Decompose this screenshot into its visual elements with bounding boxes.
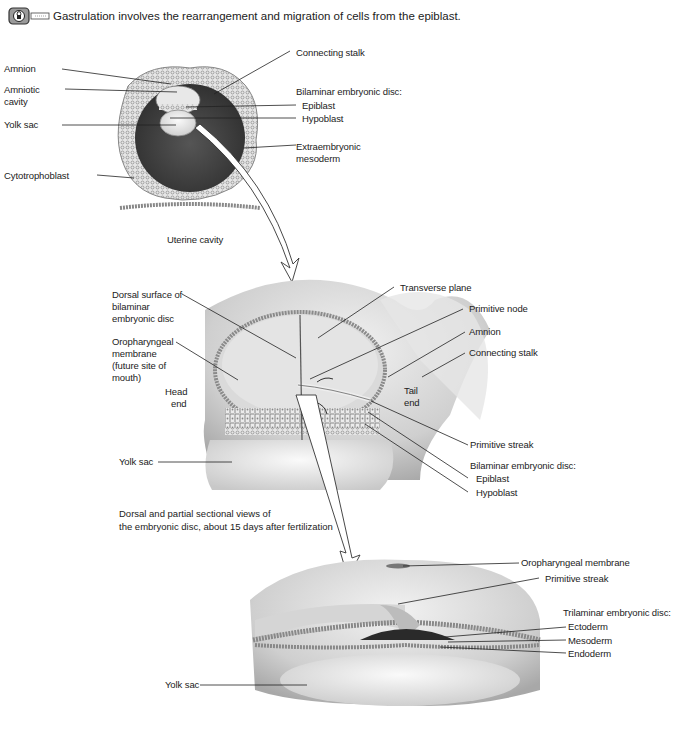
label-bilaminar-title-2: Bilaminar embryonic disc: xyxy=(470,460,576,472)
label-amniotic-cavity-1: Amniotic xyxy=(4,84,40,96)
label-bilaminar-title-1: Bilaminar embryonic disc: xyxy=(296,86,402,98)
label-primitive-node: Primitive node xyxy=(469,303,528,315)
label-epiblast-2: Epiblast xyxy=(476,473,509,485)
label-head-end-2: end xyxy=(171,398,187,410)
label-amniotic-cavity-2: cavity xyxy=(4,96,28,108)
label-yolk-sac-3: Yolk sac xyxy=(165,679,199,691)
label-extraembryonic-2: mesoderm xyxy=(296,153,340,165)
label-amnion: Amnion xyxy=(4,63,36,75)
label-endoderm: Endoderm xyxy=(568,648,611,660)
label-extraembryonic-1: Extraembryonic xyxy=(296,141,361,153)
label-epiblast-1: Epiblast xyxy=(302,100,335,112)
label-tail-end-2: end xyxy=(404,397,420,409)
label-oropharyngeal-1: Oropharyngeal xyxy=(112,336,174,348)
panel1-blastocyst xyxy=(118,67,260,208)
label-oropharyngeal-3: (future site of xyxy=(112,360,166,372)
label-mesoderm: Mesoderm xyxy=(568,635,612,647)
label-dorsal-surface-1: Dorsal surface of xyxy=(112,289,182,301)
label-connecting-stalk-2: Connecting stalk xyxy=(469,347,538,359)
label-amnion-2: Amnion xyxy=(469,326,501,338)
caption-line-1: Dorsal and partial sectional views of xyxy=(119,508,271,520)
label-oropharyngeal-4: mouth) xyxy=(112,372,141,384)
panel2-embryonic-disc xyxy=(204,280,490,490)
label-uterine-cavity: Uterine cavity xyxy=(167,234,223,246)
label-primitive-streak-2: Primitive streak xyxy=(545,573,608,585)
label-connecting-stalk-1: Connecting stalk xyxy=(296,47,365,59)
label-yolk-sac-2: Yolk sac xyxy=(119,456,153,468)
label-oropharyngeal-2: membrane xyxy=(112,348,157,360)
label-hypoblast-1: Hypoblast xyxy=(302,113,343,125)
label-oropharyngeal-membrane: Oropharyngeal membrane xyxy=(521,557,630,569)
label-transverse-plane: Transverse plane xyxy=(400,282,471,294)
gastrulation-illustration xyxy=(0,0,686,729)
label-ectoderm: Ectoderm xyxy=(568,621,608,633)
label-primitive-streak-1: Primitive streak xyxy=(470,439,533,451)
caption-line-2: the embryonic disc, about 15 days after … xyxy=(119,521,333,533)
label-dorsal-surface-2: bilaminar xyxy=(112,301,150,313)
label-dorsal-surface-3: embryonic disc xyxy=(112,313,174,325)
label-yolk-sac-1: Yolk sac xyxy=(4,119,38,131)
label-trilaminar-title: Trilaminar embryonic disc: xyxy=(563,607,671,619)
label-tail-end-1: Tail xyxy=(404,385,418,397)
label-cytotrophoblast: Cytotrophoblast xyxy=(4,170,69,182)
label-hypoblast-2: Hypoblast xyxy=(476,487,517,499)
label-head-end-1: Head xyxy=(165,386,187,398)
